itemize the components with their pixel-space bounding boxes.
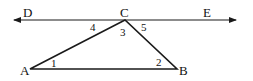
label-c: C: [120, 5, 129, 20]
label-e: E: [203, 5, 211, 20]
angle-label-5: 5: [141, 21, 147, 33]
angle-label-1: 1: [51, 57, 57, 69]
label-a: A: [20, 63, 30, 78]
angle-label-2: 2: [156, 56, 162, 68]
label-d: D: [23, 5, 32, 20]
angle-label-3: 3: [120, 26, 126, 38]
angle-label-4: 4: [90, 21, 96, 33]
triangle-parallel-line-diagram: D C E A B 1 2 3 4 5: [0, 0, 253, 81]
label-b: B: [179, 63, 188, 78]
